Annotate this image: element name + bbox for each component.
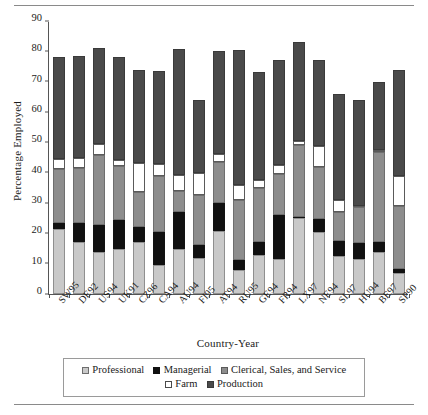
y-tick-label: 20 <box>32 225 43 236</box>
stacked-bar <box>93 48 105 294</box>
legend-label: Professional <box>92 363 144 377</box>
legend-label: Farm <box>175 377 197 391</box>
legend-row-2: FarmProduction <box>70 377 358 391</box>
bar-series-group <box>49 22 408 294</box>
bar-segment <box>93 144 105 155</box>
bar-segment <box>133 192 145 227</box>
y-tick-label: 40 <box>32 164 43 175</box>
bar-segment <box>213 162 225 203</box>
bar-segment <box>293 145 305 216</box>
stacked-bar <box>233 50 245 294</box>
legend-row-1: ProfessionalManagerialClerical, Sales, a… <box>70 363 358 377</box>
bar-segment <box>193 195 205 245</box>
bar-segment <box>333 241 345 256</box>
bar-segment <box>333 94 345 200</box>
bar-segment <box>373 152 385 241</box>
bar-segment <box>173 49 185 175</box>
bar-segment <box>273 60 285 165</box>
bar-segment <box>113 220 125 248</box>
stacked-bar <box>293 42 305 294</box>
bar-segment <box>353 243 365 259</box>
bar-segment <box>193 245 205 258</box>
bar-segment <box>253 188 265 243</box>
bar-segment <box>393 206 405 269</box>
y-tick-label: 0 <box>37 286 42 297</box>
bar-segment <box>53 223 65 228</box>
y-tick-label: 70 <box>32 73 43 84</box>
bar-segment <box>253 72 265 180</box>
bar-segment <box>273 215 285 259</box>
top-horizontal-rule <box>14 5 414 6</box>
bar-segment <box>213 231 225 294</box>
y-tick-label: 30 <box>32 195 43 206</box>
bar-segment <box>193 100 205 172</box>
stacked-bar-chart-figure: Percentage Employed 0102030405060708090 … <box>0 10 428 400</box>
stacked-bar <box>353 100 365 294</box>
stacked-bar <box>313 60 325 294</box>
stacked-bar <box>73 56 85 294</box>
stacked-bar <box>213 51 225 294</box>
bar-segment <box>233 185 245 200</box>
bar-segment <box>213 203 225 231</box>
bar-segment <box>153 71 165 164</box>
bar-segment <box>53 57 65 159</box>
stacked-bar <box>273 60 285 294</box>
y-axis-title: Percentage Employed <box>11 71 23 231</box>
y-tick-mark <box>45 20 49 21</box>
legend-label: Managerial <box>164 363 212 377</box>
bar-segment <box>233 200 245 261</box>
bar-segment <box>153 164 165 176</box>
legend-swatch-icon <box>153 367 160 374</box>
bar-segment <box>333 212 345 241</box>
legend-label: Production <box>217 377 263 391</box>
stacked-bar <box>113 57 125 294</box>
bar-segment <box>273 165 285 174</box>
stacked-bar <box>253 72 265 294</box>
stacked-bar <box>393 70 405 294</box>
chart-legend: ProfessionalManagerialClerical, Sales, a… <box>63 358 365 397</box>
bar-segment <box>233 260 245 270</box>
bar-segment <box>93 155 105 225</box>
bar-segment <box>153 176 165 232</box>
bar-segment <box>173 175 185 192</box>
stacked-bar <box>193 100 205 294</box>
bar-segment <box>93 225 105 252</box>
bar-segment <box>53 169 65 224</box>
legend-swatch-icon <box>165 381 172 388</box>
bar-segment <box>253 242 265 254</box>
bar-segment <box>373 150 385 152</box>
bar-segment <box>293 42 305 140</box>
stacked-bar <box>53 57 65 294</box>
bar-segment <box>313 146 325 167</box>
bar-segment <box>53 159 65 169</box>
y-tick-label: 80 <box>32 43 43 54</box>
bar-segment <box>253 180 265 188</box>
stacked-bar <box>153 71 165 294</box>
bar-segment <box>273 174 285 215</box>
legend-swatch-icon <box>207 381 214 388</box>
bar-segment <box>393 269 405 273</box>
legend-item: Production <box>207 377 264 391</box>
bar-segment <box>73 223 85 242</box>
bottom-horizontal-rule <box>14 404 414 405</box>
stacked-bar <box>373 82 385 294</box>
bar-segment <box>213 51 225 154</box>
stacked-bar <box>333 94 345 294</box>
bar-segment <box>293 141 305 146</box>
legend-label: Clerical, Sales, and Service <box>231 363 346 377</box>
y-tick-label: 50 <box>32 134 43 145</box>
y-tick-label: 10 <box>32 255 43 266</box>
stacked-bar <box>133 70 145 294</box>
bar-segment <box>233 50 245 185</box>
bar-segment <box>113 160 125 166</box>
bar-segment <box>373 82 385 150</box>
bar-segment <box>133 227 145 241</box>
bar-segment <box>113 166 125 220</box>
legend-item: Professional <box>82 363 144 377</box>
legend-item: Clerical, Sales, and Service <box>221 363 347 377</box>
bar-segment <box>153 232 165 265</box>
bar-segment <box>93 48 105 145</box>
bar-segment <box>73 56 85 158</box>
bar-segment <box>73 168 85 223</box>
y-tick-label: 90 <box>32 13 43 24</box>
